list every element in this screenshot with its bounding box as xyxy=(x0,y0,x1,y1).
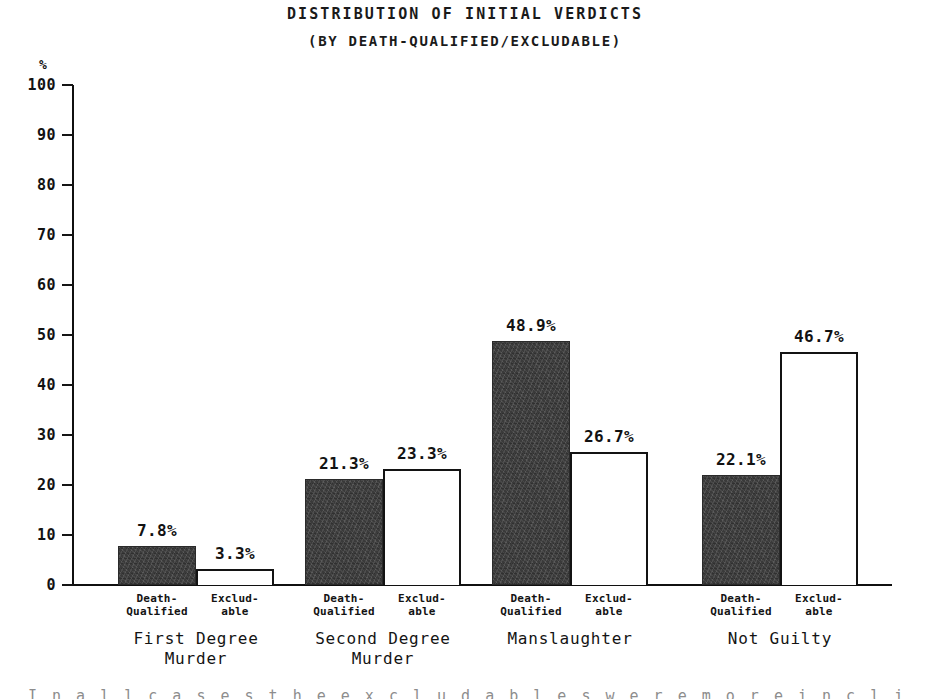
y-axis-tick xyxy=(62,484,73,486)
y-axis-tick xyxy=(62,384,73,386)
bar xyxy=(492,341,570,586)
bar-value-label: 7.8% xyxy=(106,523,208,539)
y-axis-tick xyxy=(62,134,73,136)
y-axis-tick-label: 70 xyxy=(10,228,56,242)
bar-series-label: Exclud- able xyxy=(188,592,282,618)
bar-value-label: 46.7% xyxy=(768,329,870,345)
y-axis-tick xyxy=(62,434,73,436)
y-axis-tick-label: 100 xyxy=(10,78,56,92)
y-axis-tick-label: 10 xyxy=(10,528,56,542)
bar xyxy=(305,479,383,586)
y-axis-tick-label: 90 xyxy=(10,128,56,142)
bar xyxy=(780,352,858,586)
bar-series-label: Exclud- able xyxy=(772,592,866,618)
y-axis-tick-label: 40 xyxy=(10,378,56,392)
y-axis-tick xyxy=(62,234,73,236)
x-axis-group-label: Not Guilty xyxy=(662,629,898,649)
bar xyxy=(702,475,780,586)
y-axis-tick-label: 20 xyxy=(10,478,56,492)
y-axis-tick xyxy=(62,584,73,586)
bar xyxy=(196,569,274,586)
bar xyxy=(570,452,648,586)
y-axis-tick xyxy=(62,84,73,86)
page-bleed-text: I n a l l c a s e s t h e e x c l u d a … xyxy=(28,689,908,699)
bar-value-label: 3.3% xyxy=(184,546,286,562)
bar-value-label: 26.7% xyxy=(558,429,660,445)
bar xyxy=(383,469,461,586)
y-axis-tick-label: 80 xyxy=(10,178,56,192)
y-axis-tick xyxy=(62,284,73,286)
y-axis-tick-label: 30 xyxy=(10,428,56,442)
bar-series-label: Exclud- able xyxy=(562,592,656,618)
y-axis-unit-label: % xyxy=(31,57,55,72)
bar-value-label: 22.1% xyxy=(690,452,792,468)
y-axis-tick xyxy=(62,184,73,186)
y-axis-tick xyxy=(62,334,73,336)
y-axis-tick-label: 50 xyxy=(10,328,56,342)
bar-series-label: Exclud- able xyxy=(375,592,469,618)
x-axis-group-label: Manslaughter xyxy=(452,629,688,649)
y-axis-tick-label: 60 xyxy=(10,278,56,292)
y-axis-tick xyxy=(62,534,73,536)
bar-value-label: 48.9% xyxy=(480,318,582,334)
y-axis-tick-label: 0 xyxy=(10,578,56,592)
bar-value-label: 23.3% xyxy=(371,446,473,462)
